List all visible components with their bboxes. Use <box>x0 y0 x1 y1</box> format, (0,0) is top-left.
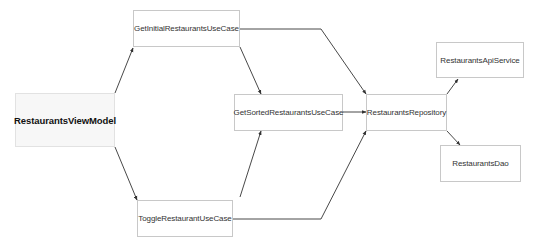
node-restaurants-view-model: RestaurantsViewModel <box>15 93 115 147</box>
edge-toggle-to-getsorted <box>240 131 261 197</box>
edge-viewmodel-to-getinitial <box>115 48 133 93</box>
node-label: ToggleRestaurantUseCase <box>138 214 231 223</box>
edge-viewmodel-to-toggle <box>115 147 137 200</box>
node-label: RestaurantsDao <box>452 159 508 168</box>
node-restaurants-api-service: RestaurantsApiService <box>436 42 524 78</box>
node-label: GetSortedRestaurantsUseCase <box>234 108 344 117</box>
node-restaurants-dao: RestaurantsDao <box>440 145 521 182</box>
edge-getinitial-to-repository <box>240 29 366 94</box>
node-label: GetInitialRestaurantsUseCase <box>134 24 239 33</box>
node-restaurants-repository: RestaurantsRepository <box>366 94 447 131</box>
edge-toggle-to-repository <box>233 131 366 219</box>
node-label: RestaurantsRepository <box>367 108 446 117</box>
node-label: RestaurantsApiService <box>440 56 519 65</box>
node-label: RestaurantsViewModel <box>14 115 116 126</box>
node-toggle-restaurant-use-case: ToggleRestaurantUseCase <box>137 200 233 237</box>
node-get-initial-restaurants-use-case: GetInitialRestaurantsUseCase <box>133 10 240 47</box>
edge-getinitial-to-getsorted <box>240 47 261 94</box>
edge-repository-to-apiservice <box>447 79 458 94</box>
edge-repository-to-dao <box>447 131 460 145</box>
node-get-sorted-restaurants-use-case: GetSortedRestaurantsUseCase <box>234 94 343 131</box>
